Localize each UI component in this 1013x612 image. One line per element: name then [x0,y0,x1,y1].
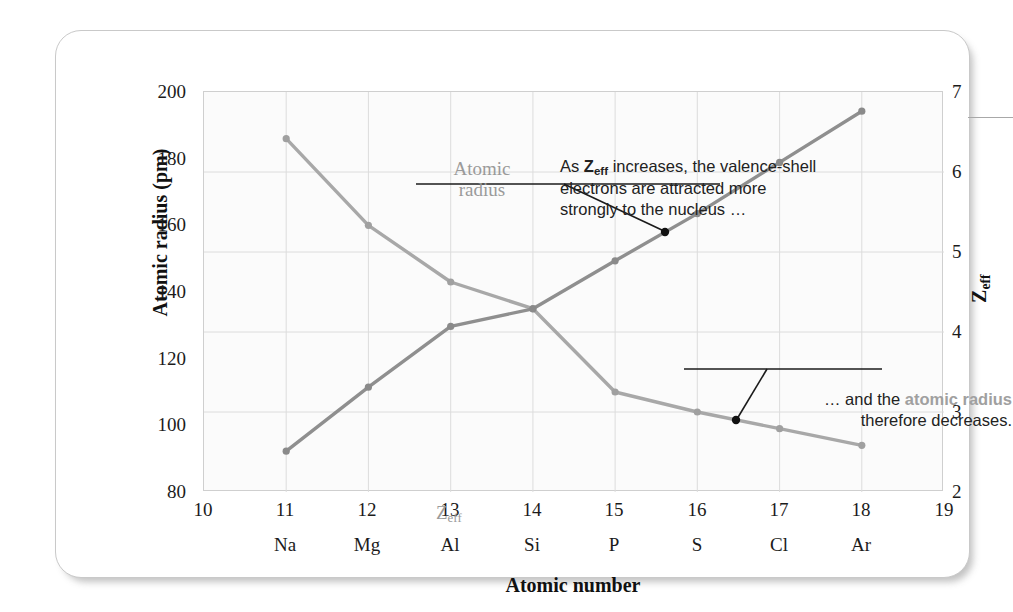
y-left-tick-160: 160 [134,214,186,236]
x-tick-19: 19 [914,499,974,521]
margin-rule [968,117,1013,118]
x-element-p: P [584,534,644,556]
x-axis-title: Atomic number [203,574,943,597]
x-tick-11: 11 [255,499,315,521]
annotation-radius-callout: … and the atomic radius therefore decrea… [824,389,1012,431]
annotation-1-zeff-main: Z [584,157,594,175]
x-element-ar: Ar [831,534,891,556]
y-axis-right-title-sub: eff [978,274,993,289]
annotation-leader-lines [204,92,944,492]
y-left-tick-180: 180 [134,148,186,170]
x-element-cl: Cl [749,534,809,556]
x-element-si: Si [502,534,562,556]
x-element-na: Na [255,534,315,556]
annotation-2-highlight: atomic radius [905,390,1012,408]
x-element-s: S [667,534,727,556]
y-left-tick-100: 100 [134,414,186,436]
series-label-zeff-main: Z [436,502,448,523]
x-tick-17: 17 [749,499,809,521]
x-tick-10: 10 [173,499,233,521]
annotation-1-part3: increases, the valence-shell [608,157,816,175]
annotation-1-line2: electrons are attracted more [560,179,766,197]
y-right-tick-4: 4 [952,321,992,343]
annotation-zeff-callout: As Zeff increases, the valence-shell ele… [560,156,816,221]
y-left-tick-200: 200 [134,81,186,103]
series-label-zeff: Zeff [436,502,496,526]
y-axis-right-title-main: Z [968,290,990,303]
plot-area: Atomic radius Zeff As Zeff increases, th… [203,91,943,491]
x-tick-15: 15 [584,499,644,521]
y-right-tick-5: 5 [952,241,992,263]
x-tick-16: 16 [667,499,727,521]
annotation-2-line2: therefore decreases. [861,411,1012,429]
series-label-atomic-radius: Atomic radius [432,158,532,201]
x-tick-14: 14 [502,499,562,521]
x-element-mg: Mg [337,534,397,556]
annotation-1-line3: strongly to the nucleus … [560,200,746,218]
y-axis-right-title: Zeff [968,199,993,379]
series-label-atomic-radius-line2: radius [459,179,505,200]
x-tick-12: 12 [337,499,397,521]
y-left-tick-140: 140 [134,281,186,303]
x-element-al: Al [420,534,480,556]
figure-frame: Atomic radius (pm) Zeff Atomic number 80… [55,30,970,578]
series-label-zeff-sub: eff [448,510,462,525]
series-label-atomic-radius-line1: Atomic [454,158,511,179]
y-right-tick-7: 7 [952,81,992,103]
annotation-1-zeff-sub: eff [594,165,608,177]
y-right-tick-6: 6 [952,161,992,183]
x-tick-18: 18 [831,499,891,521]
annotation-1-part1: As [560,157,584,175]
annotation-2-part1: … and the [824,390,905,408]
y-left-tick-120: 120 [134,348,186,370]
